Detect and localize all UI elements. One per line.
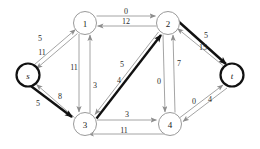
node-label-1: 1 [83,19,88,29]
edge-3-2-highlighted [97,35,162,119]
node-t[interactable]: t [221,64,244,87]
edge-label-3-s: 8 [58,92,62,101]
edge-2-4 [163,35,165,113]
edge-2-3 [95,32,159,115]
edge-label-2-4: 0 [157,77,161,86]
node-4[interactable]: 4 [159,113,182,136]
edge-3-s [37,85,75,118]
node-s[interactable]: s [17,64,40,87]
graph-canvas: 5 11 0 12 11 3 5 8 [0,0,260,149]
node-label-2: 2 [166,19,171,29]
node-3[interactable]: 3 [74,113,97,136]
edge-label-1-2: 0 [124,7,128,16]
edge-label-3-2: 4 [117,76,121,85]
edge-label-4-2: 7 [177,59,181,68]
edge-label-2-t: 5 [204,31,208,40]
graph-diagram: 5 11 0 12 11 3 5 8 [0,0,260,149]
edge-label-3-4: 3 [125,110,129,119]
node-2[interactable]: 2 [157,12,180,35]
edge-label-4-t: 0 [192,97,196,106]
edge-4-t [180,85,223,118]
edge-label-1-s: 11 [38,48,46,57]
edge-label-3-1: 3 [93,81,97,90]
edges-layer: 5 11 0 12 11 3 5 8 [32,7,228,135]
edge-4-2 [173,35,175,113]
edge-label-2-3: 5 [120,60,124,69]
edge-label-4-3: 11 [120,126,128,135]
node-label-3: 3 [83,120,88,130]
edge-label-s-3: 5 [36,99,40,108]
edge-label-1-3: 11 [70,63,78,72]
edge-label-t-2: 15 [199,43,207,52]
node-1[interactable]: 1 [74,12,97,35]
node-label-4: 4 [168,120,173,130]
node-label-s: s [26,71,30,81]
edge-label-2-1: 12 [122,17,130,26]
edge-t-4 [183,88,227,122]
edge-label-t-4: 4 [208,95,212,104]
edge-label-s-1: 5 [38,34,42,43]
